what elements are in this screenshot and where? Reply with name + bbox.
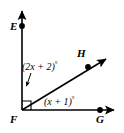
angle-label-lower: (x + 1)° xyxy=(44,94,75,107)
degree-symbol-upper: ° xyxy=(55,60,58,68)
angle-expression-upper: (2x + 2) xyxy=(22,61,55,72)
angle-label-upper: (2x + 2)° xyxy=(22,59,58,72)
point-label-g: G xyxy=(96,114,104,125)
angle-expression-lower: (x + 1) xyxy=(44,96,72,107)
point-label-f: F xyxy=(10,114,17,125)
point-label-e: E xyxy=(10,21,17,32)
degree-symbol-lower: ° xyxy=(72,95,75,103)
angle-label-leader-line xyxy=(27,73,32,86)
geometry-figure: E F G H (2x + 2)° (x + 1)° xyxy=(0,0,124,133)
point-dot-e xyxy=(19,23,25,29)
point-label-h: H xyxy=(77,48,86,59)
geometry-canvas xyxy=(0,0,124,133)
point-dot-h xyxy=(85,64,91,70)
